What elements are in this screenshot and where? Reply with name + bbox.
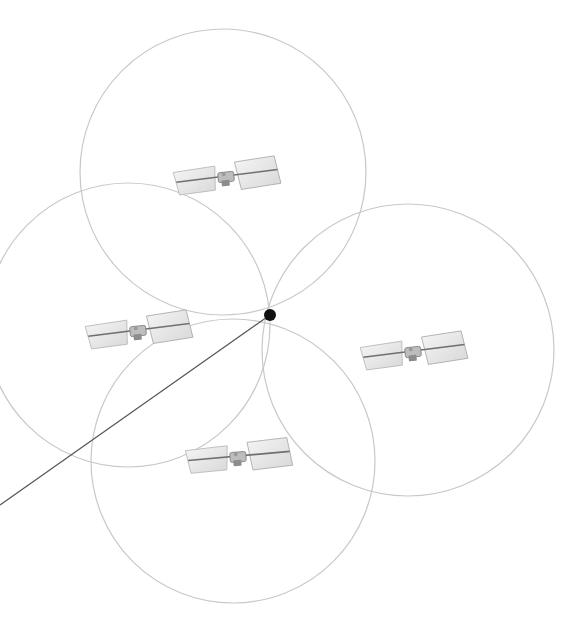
satellite-left-icon [85, 309, 194, 350]
signal-line [0, 315, 270, 505]
satellite-top-icon [173, 155, 282, 196]
coverage-circles [0, 29, 554, 603]
satellite-bottom-icon [185, 437, 293, 474]
satellite-coverage-diagram [0, 0, 580, 628]
receiver-point-icon [264, 309, 276, 321]
satellites [85, 155, 469, 474]
satellite-right-icon [360, 330, 469, 371]
coverage-circle-left [0, 183, 270, 467]
